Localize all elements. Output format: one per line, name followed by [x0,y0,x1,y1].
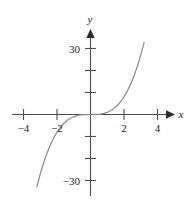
cubic-function-graph: −4 −2 2 4 30 −30 x y [0,0,192,204]
y-tick-label-minus30: −30 [63,175,81,187]
y-tick-label-30: 30 [69,43,81,55]
x-tick-label-2: 2 [121,122,127,134]
graph-canvas: −4 −2 2 4 30 −30 x y [0,0,192,204]
x-axis-label: x [178,108,184,120]
y-axis-arrow-icon [86,29,94,38]
y-axis-label: y [87,13,93,25]
x-axis-arrow-icon [166,110,175,118]
x-tick-label-4: 4 [155,122,161,134]
x-tick-label-minus2: −2 [51,122,63,134]
x-tick-label-minus4: −4 [18,122,30,134]
